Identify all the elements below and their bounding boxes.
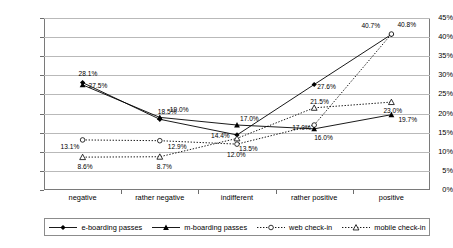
data-label: 14.4%: [211, 132, 230, 139]
data-point-marker: [61, 224, 66, 229]
series-line: [83, 34, 392, 135]
data-label: 17.0%: [292, 124, 311, 131]
data-point-marker: [269, 225, 274, 230]
legend-item[interactable]: web check-in: [256, 223, 332, 232]
legend-marker-icon: [151, 223, 181, 232]
legend-label: mobile check-in: [374, 223, 425, 232]
legend-marker-icon: [341, 223, 371, 232]
legend-marker-icon: [256, 223, 286, 232]
legend-marker-icon: [48, 223, 78, 232]
data-label: 13.5%: [239, 145, 258, 152]
data-label: 21.5%: [310, 98, 329, 105]
series-lines-layer: [0, 0, 453, 248]
series-line: [83, 34, 392, 144]
legend-label: web check-in: [289, 223, 332, 232]
data-label: 8.6%: [78, 163, 93, 170]
data-label: 16.0%: [314, 134, 333, 141]
legend-item[interactable]: e-boarding passes: [48, 223, 142, 232]
legend-label: e-boarding passes: [81, 223, 142, 232]
data-point-marker: [80, 138, 85, 143]
data-point-marker: [312, 82, 317, 87]
data-label: 17.0%: [240, 115, 259, 122]
data-label: 23.0%: [383, 107, 402, 114]
data-point-marker: [312, 123, 317, 128]
series-line: [83, 102, 392, 157]
chart-container: 0%5%10%15%20%25%30%35%40%45% negativerat…: [0, 0, 453, 248]
data-point-marker: [311, 105, 317, 110]
legend-label: m-boarding passes: [184, 223, 247, 232]
data-label: 27.5%: [89, 82, 108, 89]
data-point-marker: [389, 99, 395, 104]
data-label: 27.6%: [317, 83, 336, 90]
data-label: 12.9%: [168, 143, 187, 150]
data-point-marker: [80, 154, 86, 159]
data-label: 40.7%: [361, 22, 380, 29]
data-point-marker: [234, 136, 240, 141]
data-label: 19.7%: [398, 116, 417, 123]
chart-legend: e-boarding passesm-boarding passesweb ch…: [44, 218, 430, 236]
data-label: 13.1%: [61, 143, 80, 150]
data-label: 40.8%: [397, 21, 416, 28]
data-label: 8.7%: [157, 163, 172, 170]
legend-item[interactable]: m-boarding passes: [151, 223, 247, 232]
legend-item[interactable]: mobile check-in: [341, 223, 425, 232]
data-label: 28.1%: [79, 70, 98, 77]
data-label: 19.0%: [170, 106, 189, 113]
data-point-marker: [389, 32, 394, 37]
data-point-marker: [158, 138, 163, 143]
